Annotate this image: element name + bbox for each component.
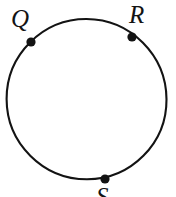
point-marker-q: [26, 37, 35, 46]
point-label-s: S: [96, 184, 109, 197]
point-label-q: Q: [11, 6, 29, 31]
point-marker-r: [127, 32, 136, 41]
geometry-figure: Q R S: [0, 0, 176, 197]
point-label-r: R: [129, 2, 144, 27]
